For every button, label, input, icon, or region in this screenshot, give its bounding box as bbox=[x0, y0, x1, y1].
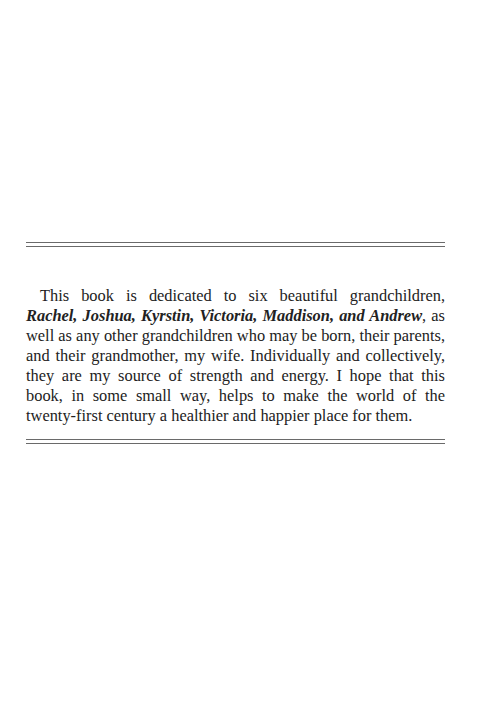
dedication-intro: This book is dedicated to six beautiful … bbox=[40, 286, 445, 305]
grandchildren-names: Rachel, Joshua, Kyrstin, Victoria, Maddi… bbox=[26, 306, 422, 325]
bottom-rule-lower bbox=[26, 443, 445, 444]
bottom-rule-upper bbox=[26, 439, 445, 440]
top-rule-lower bbox=[26, 246, 445, 247]
top-rule-upper bbox=[26, 242, 445, 243]
dedication-paragraph: This book is dedicated to six beautiful … bbox=[26, 286, 445, 426]
